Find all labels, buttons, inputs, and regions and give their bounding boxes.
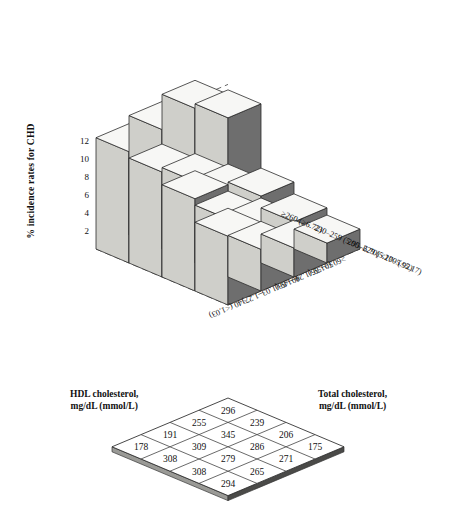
bar-face-left <box>96 138 129 263</box>
hdl-table-title-line1: HDL cholesterol, <box>70 388 138 400</box>
table-cell: 175 <box>308 442 323 452</box>
table-cell: 296 <box>221 406 236 416</box>
table-cell: 239 <box>250 418 265 428</box>
counts-table-left-header: HDL cholesterol, mg/dL (mmol/L) <box>70 388 138 412</box>
table-cell: 286 <box>250 442 265 452</box>
table-cell: 206 <box>279 430 294 440</box>
table-cell: 178 <box>134 442 149 452</box>
table-cell: 308 <box>163 454 178 464</box>
bar-face-left <box>195 222 228 305</box>
total-table-title-line1: Total cholesterol, <box>318 388 387 400</box>
bar-face-left <box>162 185 195 291</box>
table-cell: 265 <box>250 467 265 477</box>
hdl-table-title-line2: mg/dL (mmol/L) <box>70 400 138 412</box>
table-cell: 308 <box>192 467 207 477</box>
table-cell: 191 <box>163 430 178 440</box>
chart-canvas: <40 (<1.03)40–49 (1.03–1.27)50–59 (1.29–… <box>0 0 456 517</box>
table-cell: 294 <box>221 479 236 489</box>
table-cell: 309 <box>192 442 207 452</box>
y-tick-label: 8 <box>85 172 90 182</box>
table-cell: 271 <box>279 454 294 464</box>
y-ticks-group: 24681012 <box>80 136 90 237</box>
table-cell: 345 <box>221 430 236 440</box>
y-tick-label: 4 <box>85 208 90 218</box>
y-tick-label: 10 <box>80 154 90 164</box>
counts-table-group: 2962392061752553452862711913092792651783… <box>112 398 344 501</box>
total-table-title-line2: mg/dL (mmol/L) <box>318 400 387 412</box>
y-tick-label: 12 <box>80 136 89 146</box>
table-cell: 255 <box>192 418 207 428</box>
counts-table-right-header: Total cholesterol, mg/dL (mmol/L) <box>318 388 387 412</box>
y-tick-label: 6 <box>85 190 90 200</box>
table-cell: 279 <box>221 454 236 464</box>
y-axis-label: % incidence rates for CHD <box>26 106 36 256</box>
y-tick-label: 2 <box>85 226 90 236</box>
bar-face-left <box>129 158 162 277</box>
